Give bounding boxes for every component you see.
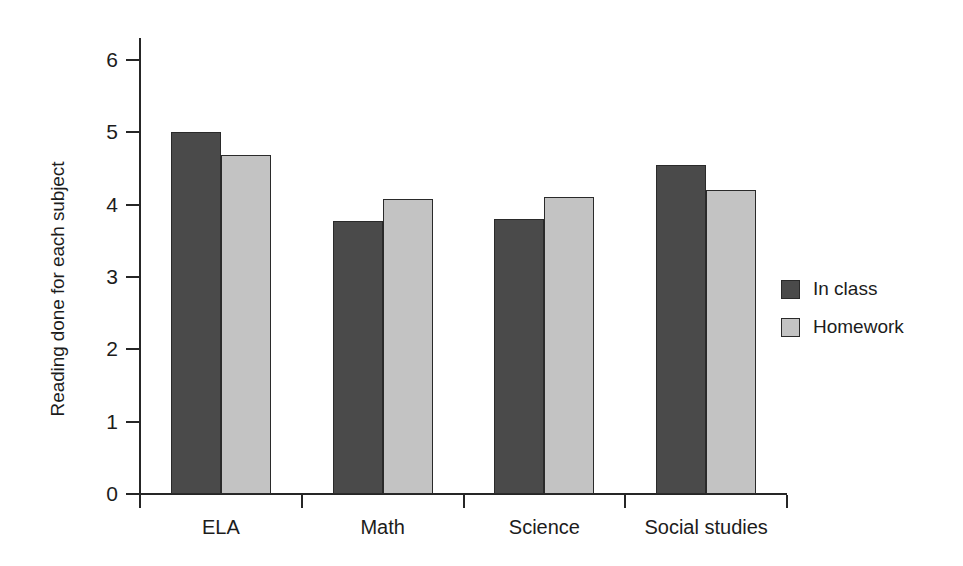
bar-chart: Reading done for each subject 0123456 EL… (0, 0, 963, 566)
legend-item-label: Homework (813, 316, 904, 338)
y-axis-tick-label: 5 (78, 120, 118, 144)
y-axis-tick (126, 131, 139, 133)
bar (383, 199, 433, 494)
chart-legend: In classHomework (781, 270, 904, 346)
x-axis-tick (786, 495, 788, 508)
y-axis-tick-label: 1 (78, 410, 118, 434)
bar (706, 190, 756, 494)
bar (656, 165, 706, 494)
y-axis-tick-label: 2 (78, 337, 118, 361)
y-axis-tick (126, 493, 139, 495)
legend-item: In class (781, 270, 904, 308)
bar (221, 155, 271, 494)
x-axis-tick (139, 495, 141, 508)
bar (494, 219, 544, 494)
legend-swatch-icon (781, 318, 800, 337)
x-axis-tick (301, 495, 303, 508)
bar (544, 197, 594, 494)
y-axis-title: Reading done for each subject (47, 109, 69, 469)
y-axis-tick-label: 6 (78, 48, 118, 72)
y-axis-tick-label: 0 (78, 482, 118, 506)
y-axis-tick (126, 421, 139, 423)
y-axis-tick (126, 276, 139, 278)
bar (333, 221, 383, 494)
legend-item-label: In class (813, 278, 877, 300)
x-axis-tick (463, 495, 465, 508)
x-axis-category-label: Math (360, 516, 404, 539)
y-axis-tick-label: 3 (78, 265, 118, 289)
x-axis-category-label: Social studies (644, 516, 767, 539)
y-axis-line (139, 38, 141, 495)
y-axis-tick-label: 4 (78, 193, 118, 217)
legend-item: Homework (781, 308, 904, 346)
x-axis-category-label: Science (509, 516, 580, 539)
y-axis-tick (126, 204, 139, 206)
bar (171, 132, 221, 494)
x-axis-category-label: ELA (202, 516, 240, 539)
legend-swatch-icon (781, 280, 800, 299)
y-axis-tick (126, 348, 139, 350)
x-axis-tick (624, 495, 626, 508)
y-axis-tick (126, 59, 139, 61)
